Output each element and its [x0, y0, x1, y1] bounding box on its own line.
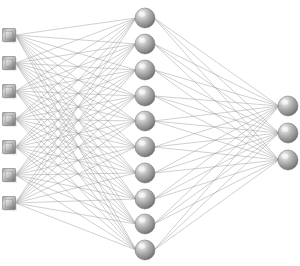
hidden-node-sphere [135, 111, 155, 131]
connection-edge [16, 18, 137, 147]
hidden-node-sphere-highlight [139, 167, 146, 172]
connection-edge [154, 160, 279, 173]
network-svg [0, 0, 300, 266]
hidden-layer-nodes [135, 8, 157, 261]
hidden-node-sphere-highlight [139, 12, 146, 17]
connection-edge [154, 106, 279, 147]
connection-edge [16, 91, 137, 173]
hidden-node-sphere-highlight [139, 141, 146, 146]
connection-edge [16, 18, 137, 91]
connection-edge [16, 35, 137, 44]
output-node-sphere-highlight [282, 100, 289, 105]
connection-edge [16, 121, 137, 203]
connection-edge [16, 70, 137, 91]
input-node-square-inner [5, 199, 12, 206]
connection-edge [154, 147, 279, 160]
connection-edge [154, 133, 279, 147]
edges-hidden-to-output [154, 18, 279, 250]
connection-edge [16, 119, 137, 173]
hidden-node-sphere-highlight [139, 244, 146, 249]
hidden-node-sphere [135, 60, 155, 80]
output-node-sphere-highlight [282, 127, 289, 132]
input-node-square-inner [5, 171, 12, 178]
hidden-node-sphere [135, 240, 155, 260]
connection-edge [154, 18, 279, 106]
hidden-node-sphere [135, 86, 155, 106]
input-node-square-inner [5, 31, 12, 38]
connection-edge [154, 106, 279, 173]
input-layer-nodes [3, 29, 17, 212]
hidden-node-sphere [135, 8, 155, 28]
connection-edge [154, 106, 279, 121]
hidden-node-sphere [135, 34, 155, 54]
input-node-square-inner [5, 87, 12, 94]
output-node-sphere-highlight [282, 154, 289, 159]
connection-edge [16, 147, 137, 199]
hidden-node-sphere-highlight [139, 90, 146, 95]
input-node-square-inner [5, 59, 12, 66]
connection-edge [154, 44, 279, 106]
input-node-square-inner [5, 115, 12, 122]
connection-edge [154, 18, 279, 160]
output-node-sphere [278, 96, 298, 116]
connection-edge [154, 106, 279, 224]
connection-edge [154, 96, 279, 106]
hidden-node-sphere-highlight [139, 193, 146, 198]
hidden-node-sphere-highlight [139, 38, 146, 43]
hidden-node-sphere [135, 137, 155, 157]
hidden-node-sphere-highlight [139, 64, 146, 69]
connection-edge [16, 70, 137, 119]
connection-edge [154, 106, 279, 199]
connection-edge [154, 133, 279, 250]
output-layer-nodes [278, 96, 300, 171]
input-node-square-inner [5, 143, 12, 150]
output-node-sphere [278, 123, 298, 143]
connection-edge [154, 133, 279, 224]
hidden-node-sphere [135, 189, 155, 209]
connection-edge [16, 119, 137, 224]
hidden-node-sphere-highlight [139, 218, 146, 223]
connection-edge [154, 160, 279, 224]
hidden-node-sphere [135, 163, 155, 183]
edges-input-to-hidden [16, 18, 137, 250]
connection-edge [16, 91, 137, 250]
connection-edge [16, 147, 137, 173]
connection-edge [154, 160, 279, 250]
connection-edge [154, 106, 279, 250]
hidden-node-sphere-highlight [139, 115, 146, 120]
connection-edge [154, 133, 279, 173]
connection-edge [16, 203, 137, 224]
connection-edge [16, 44, 137, 63]
hidden-node-sphere [135, 214, 155, 234]
output-node-sphere [278, 150, 298, 170]
connection-edge [16, 18, 137, 35]
neural-network-diagram [0, 0, 300, 266]
